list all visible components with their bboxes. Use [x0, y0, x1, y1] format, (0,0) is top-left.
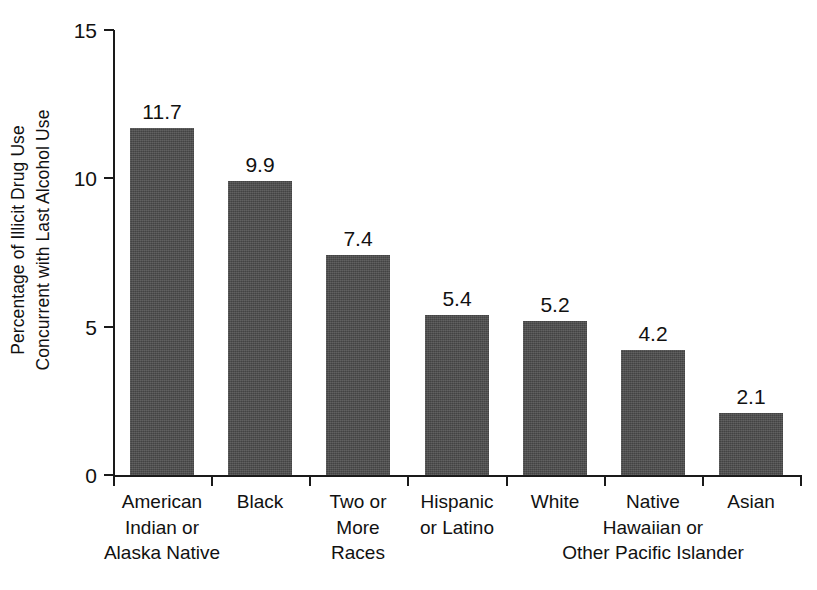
y-tick-5: 5 — [104, 326, 114, 328]
bar-value-label: 2.1 — [736, 386, 765, 407]
bar: 5.2 — [523, 321, 587, 475]
plot-area: 051015 11.79.97.45.45.24.22.1 — [113, 30, 800, 475]
y-axis-title: Percentage of Illicit Drug Use Concurren… — [0, 0, 62, 480]
bar-value-label: 9.9 — [245, 154, 274, 175]
x-category-label-line: Native — [562, 489, 744, 515]
x-tick-4 — [506, 475, 508, 486]
x-category-label: Black — [237, 489, 283, 515]
y-axis-title-line-1: Percentage of Illicit Drug Use — [6, 110, 31, 371]
bar-chart: Percentage of Illicit Drug Use Concurren… — [0, 0, 817, 590]
x-category-label-line: Alaska Native — [104, 540, 220, 566]
bar-value-label: 5.4 — [442, 288, 471, 309]
y-tick-label-0: 0 — [85, 465, 97, 486]
x-category-label-line: Races — [329, 540, 386, 566]
x-category-label-line: Other Pacific Islander — [562, 540, 744, 566]
x-category-label: NativeHawaiian orOther Pacific Islander — [562, 489, 744, 566]
x-category-label-line: American — [104, 489, 220, 515]
x-tick-2 — [309, 475, 311, 486]
y-tick-label-15: 15 — [74, 20, 97, 41]
bar-value-label: 7.4 — [343, 228, 372, 249]
x-tick-3 — [407, 475, 409, 486]
y-axis-title-text: Percentage of Illicit Drug Use Concurren… — [6, 110, 56, 371]
bar: 2.1 — [719, 413, 783, 475]
x-category-label-line: Black — [237, 489, 283, 515]
y-tick-label-10: 10 — [74, 168, 97, 189]
x-category-label-line: Hawaiian or — [562, 515, 744, 541]
bar-value-label: 4.2 — [638, 323, 667, 344]
y-axis-title-line-2: Concurrent with Last Alcohol Use — [31, 110, 56, 371]
x-category-label: Two orMoreRaces — [329, 489, 386, 566]
x-tick-1 — [211, 475, 213, 486]
x-category-label-line: Asian — [727, 489, 775, 515]
bar: 5.4 — [425, 315, 489, 475]
bar-value-label: 5.2 — [540, 294, 569, 315]
x-category-label-line: Two or — [329, 489, 386, 515]
x-tick-7 — [800, 475, 802, 486]
x-tick-6 — [702, 475, 704, 486]
bar: 9.9 — [228, 181, 292, 475]
x-category-label-line: or Latino — [420, 515, 494, 541]
x-category-label-line: More — [329, 515, 386, 541]
y-axis-line — [113, 30, 115, 476]
x-category-label: AmericanIndian orAlaska Native — [104, 489, 220, 566]
x-category-label: Hispanicor Latino — [420, 489, 494, 540]
x-category-label-line: Hispanic — [420, 489, 494, 515]
bar: 4.2 — [621, 350, 685, 475]
y-tick-label-5: 5 — [85, 316, 97, 337]
y-tick-10: 10 — [104, 177, 114, 179]
x-tick-0 — [113, 475, 115, 486]
bar-value-label: 11.7 — [142, 101, 181, 122]
y-tick-15: 15 — [104, 29, 114, 31]
bar: 7.4 — [326, 255, 390, 475]
bar: 11.7 — [130, 128, 194, 475]
x-category-label-line: Indian or — [104, 515, 220, 541]
x-axis-line — [113, 475, 801, 477]
x-category-label: Asian — [727, 489, 775, 515]
x-tick-5 — [604, 475, 606, 486]
